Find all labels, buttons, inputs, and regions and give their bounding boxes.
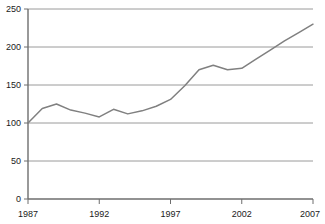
y-tick-label-50: 50 bbox=[11, 156, 21, 166]
x-tick-label-1992: 1992 bbox=[89, 209, 109, 219]
x-tick-label-1987: 1987 bbox=[18, 209, 38, 219]
y-tick-label-250: 250 bbox=[6, 4, 21, 14]
y-tick-label-100: 100 bbox=[6, 118, 21, 128]
y-tick-label-200: 200 bbox=[6, 42, 21, 52]
y-tick-label-0: 0 bbox=[16, 194, 21, 204]
x-tick-label-2002: 2002 bbox=[232, 209, 252, 219]
y-tick-label-150: 150 bbox=[6, 80, 21, 90]
x-tick-label-1997: 1997 bbox=[160, 209, 180, 219]
line-chart: 250 200 150 100 50 0 1987 1992 1997 2002… bbox=[0, 0, 325, 224]
chart-canvas: 250 200 150 100 50 0 1987 1992 1997 2002… bbox=[0, 0, 325, 224]
x-tick-label-2007: 2007 bbox=[300, 209, 320, 219]
chart-background bbox=[0, 0, 325, 224]
